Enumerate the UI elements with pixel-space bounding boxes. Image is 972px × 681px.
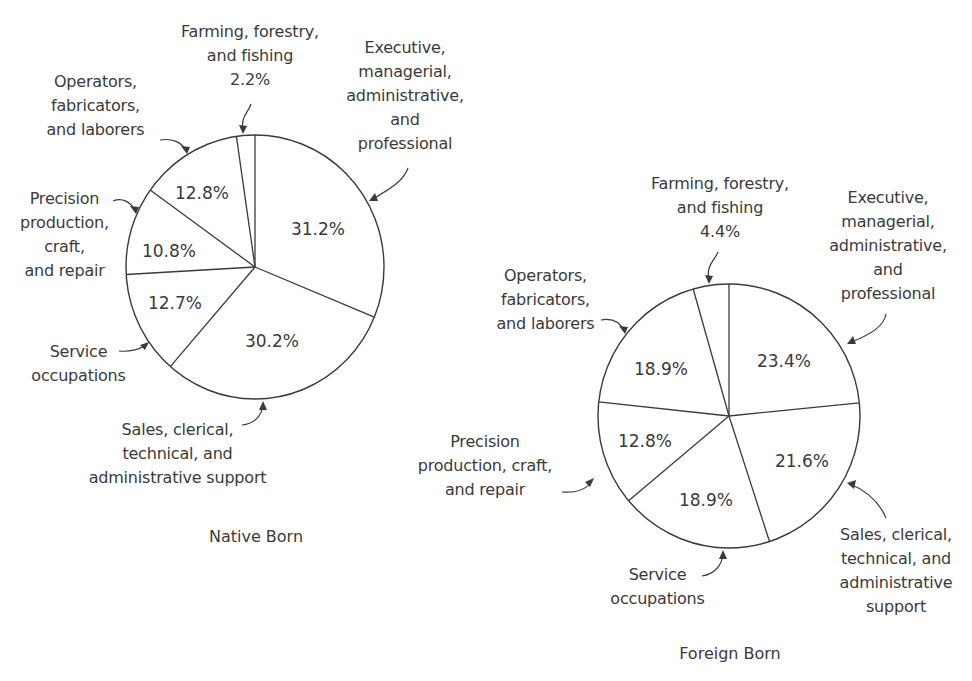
foreign-pct-sales: 21.6% (775, 451, 829, 471)
native-label-sales: Sales, clerical, technical, and administ… (80, 418, 275, 490)
arrow-native-executive (371, 168, 408, 200)
figure: Farming, forestry, and fishing 2.2% Exec… (0, 0, 972, 681)
native-label-operators: Operators, fabricators, and laborers (28, 70, 163, 142)
foreign-label-operators: Operators, fabricators, and laborers (478, 264, 613, 336)
native-label-service: Service occupations (26, 340, 131, 388)
foreign-label-farming: Farming, forestry, and fishing 4.4% (640, 172, 800, 244)
foreign-pct-precision: 12.8% (618, 431, 672, 451)
native-label-precision: Precision production, craft, and repair (12, 187, 117, 283)
native-pct-precision: 10.8% (142, 241, 196, 261)
arrow-foreign-sales (850, 484, 886, 518)
native-pct-sales: 30.2% (245, 331, 299, 351)
foreign-pct-operators: 18.9% (634, 359, 688, 379)
native-pct-operators: 12.8% (175, 183, 229, 203)
foreign-label-sales: Sales, clerical, technical, and administ… (826, 523, 966, 619)
native-label-executive: Executive, managerial, administrative, a… (335, 36, 475, 156)
native-pct-executive: 31.2% (291, 219, 345, 239)
foreign-title: Foreign Born (679, 644, 781, 664)
native-pct-service: 12.7% (148, 293, 202, 313)
native-title: Native Born (209, 527, 303, 547)
foreign-label-precision: Precision production, craft, and repair (410, 430, 560, 502)
arrow-foreign-executive (849, 314, 886, 343)
foreign-label-service: Service occupations (605, 563, 710, 611)
arrow-native-operators (160, 139, 186, 151)
native-born-pie (126, 135, 384, 399)
native-label-farming: Farming, forestry, and fishing 2.2% (170, 20, 330, 92)
foreign-pct-service: 18.9% (679, 490, 733, 510)
foreign-label-executive: Executive, managerial, administrative, a… (818, 186, 958, 306)
foreign-pct-executive: 23.4% (757, 351, 811, 371)
